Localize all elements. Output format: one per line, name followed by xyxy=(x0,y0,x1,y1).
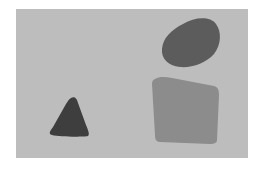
scene-svg xyxy=(0,0,265,169)
image-canvas xyxy=(0,0,265,169)
medium-gray-quadrilateral-shape xyxy=(152,77,219,144)
